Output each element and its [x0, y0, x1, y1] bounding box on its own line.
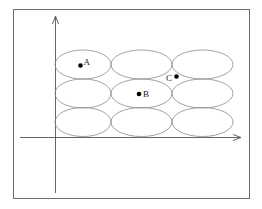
- ellipse-r3-c2: [111, 108, 172, 137]
- ellipse-r2-c3: [172, 79, 233, 108]
- point-b-label: B: [143, 89, 149, 99]
- ellipse-r2-c2: [111, 79, 172, 108]
- ellipse-grid-diagram: A B C: [0, 0, 262, 209]
- axes: [20, 16, 241, 193]
- point-a-label: A: [84, 57, 91, 67]
- point-b: B: [137, 89, 149, 99]
- point-c-label: C: [166, 73, 172, 83]
- point-a: A: [78, 57, 90, 68]
- ellipse-r1-c2: [111, 50, 172, 79]
- point-b-dot: [137, 92, 142, 97]
- ellipse-r3-c3: [172, 108, 233, 137]
- point-c-dot: [174, 74, 179, 79]
- ellipse-r1-c3: [172, 50, 233, 79]
- point-a-dot: [78, 63, 83, 68]
- ellipse-r2-c1: [55, 79, 111, 108]
- point-c: C: [166, 73, 179, 83]
- frame-border: [14, 10, 250, 199]
- ellipse-r3-c1: [55, 108, 111, 137]
